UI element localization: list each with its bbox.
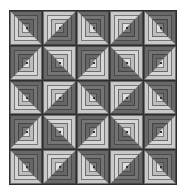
block-center-square (26, 166, 28, 168)
block-center-square (93, 131, 95, 133)
block-center-square (93, 166, 95, 168)
quilt-block-r0-c4 (144, 11, 176, 45)
quilt-block-r1-c2 (77, 46, 109, 80)
block-center-square (26, 97, 28, 99)
quilt-block-r4-c2 (77, 150, 109, 184)
block-center-square (59, 27, 61, 29)
block-center-square (126, 166, 128, 168)
quilt-block-r1-c0 (10, 46, 42, 80)
quilt-block-r1-c4 (144, 46, 176, 80)
block-center-square (93, 27, 95, 29)
block-center-square (26, 131, 28, 133)
quilt-block-r3-c1 (43, 115, 75, 149)
block-center-square (126, 27, 128, 29)
quilt-block-r2-c3 (110, 81, 142, 115)
quilt-block-r0-c3 (110, 11, 142, 45)
quilt-block-r4-c3 (110, 150, 142, 184)
block-center-square (59, 62, 61, 64)
block-center-square (93, 97, 95, 99)
quilt-block-r0-c0 (10, 11, 42, 45)
quilt-block-r4-c1 (43, 150, 75, 184)
block-center-square (26, 27, 28, 29)
quilt-block-r1-c3 (110, 46, 142, 80)
quilt-block-r3-c4 (144, 115, 176, 149)
quilt-block-r1-c1 (43, 46, 75, 80)
quilt-block-r4-c0 (10, 150, 42, 184)
quilt-block-r2-c1 (43, 81, 75, 115)
block-center-square (160, 97, 162, 99)
quilt-block-r2-c4 (144, 81, 176, 115)
block-center-square (26, 62, 28, 64)
block-center-square (160, 27, 162, 29)
block-center-square (126, 62, 128, 64)
block-center-square (59, 166, 61, 168)
quilt-block-r3-c2 (77, 115, 109, 149)
quilt-block-r2-c2 (77, 81, 109, 115)
quilt-block-r4-c4 (144, 150, 176, 184)
block-center-square (126, 131, 128, 133)
block-center-square (59, 97, 61, 99)
block-center-square (160, 62, 162, 64)
quilt-block-r3-c0 (10, 115, 42, 149)
quilt-block-r0-c1 (43, 11, 75, 45)
block-center-square (160, 131, 162, 133)
quilt-block-r3-c3 (110, 115, 142, 149)
quilt-block-r2-c0 (10, 81, 42, 115)
block-center-square (126, 97, 128, 99)
block-center-square (93, 62, 95, 64)
block-center-square (160, 166, 162, 168)
quilt-block-r0-c2 (77, 11, 109, 45)
log-cabin-quilt-grid (9, 10, 177, 185)
block-center-square (59, 131, 61, 133)
